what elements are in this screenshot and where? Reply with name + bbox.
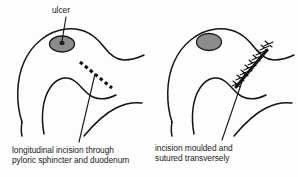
stomach-wall-tail-right bbox=[171, 122, 172, 136]
incision-line-dashed-left bbox=[80, 62, 112, 88]
duodenum-lower-border-left bbox=[84, 103, 142, 136]
suture-stitches-right bbox=[232, 41, 273, 87]
ulcer-marker-right bbox=[197, 34, 222, 51]
ulcer-label: ulcer bbox=[52, 5, 70, 15]
pyloric-inner-fold-right bbox=[192, 78, 266, 134]
stomach-wall-tail-left bbox=[21, 122, 22, 136]
stomach-outer-wall-right bbox=[168, 29, 294, 122]
panel-right bbox=[168, 29, 294, 140]
caption-leader-line-right bbox=[222, 73, 245, 140]
incision-line-solid-right bbox=[236, 50, 267, 87]
ulcer-ellipse-right bbox=[197, 34, 222, 51]
pyloric-inner-fold-left bbox=[42, 78, 116, 134]
panel-left bbox=[18, 17, 144, 142]
caption-left-panel: longitudinal incision through pyloric sp… bbox=[12, 146, 152, 165]
caption-right-panel: incision moulded and sutured transversel… bbox=[155, 144, 290, 163]
stomach-outer-wall-left bbox=[18, 29, 144, 122]
duodenum-lower-border-right bbox=[234, 103, 292, 136]
